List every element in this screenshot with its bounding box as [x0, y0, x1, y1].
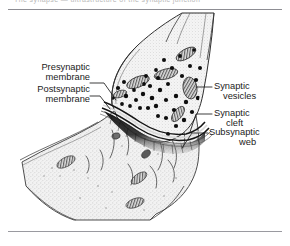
label-postsynaptic-membrane-line2: membrane [14, 94, 90, 104]
label-presynaptic-membrane-line1: Presynaptic [41, 62, 90, 72]
label-postsynaptic-membrane-line1: Postsynaptic [37, 84, 90, 94]
label-synaptic-vesicles-line2: vesicles [223, 91, 256, 101]
running-head: The synapse — ultrastructure of the syna… [14, 0, 276, 5]
figure-page: The synapse — ultrastructure of the syna… [0, 0, 290, 246]
label-presynaptic-membrane-line2: membrane [18, 72, 90, 82]
presynaptic-terminal [111, 13, 214, 142]
bottom-rule [8, 231, 282, 232]
label-synaptic-vesicles-line1: Synaptic [214, 81, 250, 91]
label-synaptic-cleft-line1: Synaptic [214, 108, 250, 118]
label-subsynaptic-web-line1: Subsynaptic [209, 127, 260, 137]
label-subsynaptic-web: Subsynaptic web [209, 127, 260, 147]
diagram-ink [20, 13, 214, 220]
label-presynaptic-membrane: Presynaptic membrane [18, 62, 90, 82]
label-synaptic-vesicles: Synaptic vesicles [214, 81, 256, 101]
label-subsynaptic-web-line2: web [239, 137, 260, 147]
label-synaptic-cleft: Synaptic cleft [214, 108, 250, 128]
label-postsynaptic-membrane: Postsynaptic membrane [14, 84, 90, 104]
